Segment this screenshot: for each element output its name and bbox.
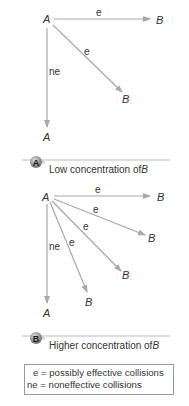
target-label-b: B [157,191,164,203]
target-label-a: A [42,307,50,319]
target-label-b: B [122,269,129,281]
badge-a: A [30,156,45,168]
panel-low-concentration: A e B e B ne A A [22,7,170,168]
badge-b: B [30,332,45,344]
caption-text: Low concentration of [49,164,141,175]
arrow-label-e: e [96,7,102,18]
arrow-label-e: e [84,46,90,57]
caption-text: Higher concentration of [49,340,152,351]
target-label-b: B [122,93,129,105]
badge-letter: B [33,334,40,344]
legend-box: e = possibly effective collisions ne = n… [24,364,174,395]
arrow-label-ne: ne [49,241,61,252]
target-label-b: B [85,296,92,308]
arrow-label-e: e [69,237,75,248]
caption-species: B [152,340,159,351]
legend-line-effective: e = possibly effective collisions [27,367,173,379]
arrow-label-e: e [93,204,99,215]
caption-species: B [141,164,148,175]
arrow-label-e: e [95,184,101,195]
caption-low-concentration: Low concentration ofB [49,164,148,175]
arrow-effective-diagonal [53,25,122,92]
target-label-b: B [148,232,155,244]
origin-label-a: A [42,13,50,25]
target-label-a: A [42,131,50,143]
badge-letter: A [33,158,40,168]
arrow-label-e: e [83,221,89,232]
legend-line-noneffective: ne = noneffective collisions [27,379,173,391]
caption-high-concentration: Higher concentration ofB [49,340,159,351]
arrow-label-ne: ne [49,66,61,77]
panel-high-concentration: A e B e B e B e B ne A B [22,184,170,344]
target-label-b: B [156,14,163,26]
origin-label-a: A [41,191,49,203]
